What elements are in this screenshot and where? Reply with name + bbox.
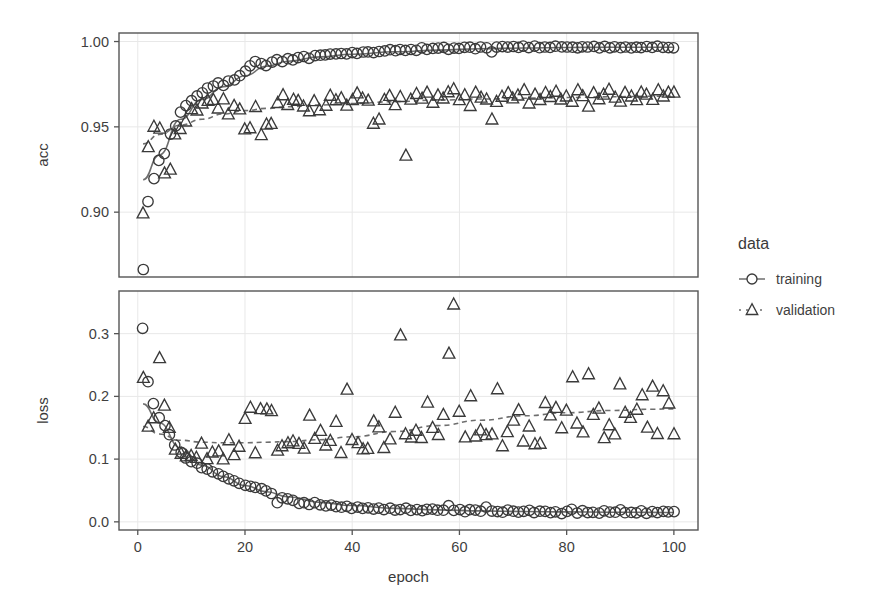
xtick-label-5: 100 [662,539,686,555]
xtick-label-0: 0 [134,539,142,555]
axis-label-acc: acc [34,143,51,167]
legend-label-validation: validation [776,302,835,318]
panel-loss: 0.00.10.20.3loss [34,291,698,530]
ytick-label-loss-3: 0.3 [89,326,109,342]
ytick-label-acc-0: 0.90 [81,204,109,220]
circle-icon [747,274,757,284]
ytick-label-loss-1: 0.1 [89,451,109,467]
ytick-label-acc-1: 0.95 [81,119,109,135]
xtick-label-3: 60 [451,539,467,555]
xtick-label-2: 40 [344,539,360,555]
xtick-label-1: 20 [237,539,253,555]
axis-label-epoch: epoch [388,568,429,585]
ytick-label-loss-0: 0.0 [89,514,109,530]
x-axis: 020406080100epoch [134,530,686,585]
ytick-label-loss-2: 0.2 [89,388,109,404]
ytick-label-acc-2: 1.00 [81,34,109,50]
panel-acc: 0.900.951.00acc [34,33,698,277]
chart-svg: 0.900.951.00acc0.00.10.20.3loss020406080… [0,0,880,612]
legend: datatrainingvalidation [738,235,835,318]
plot-figure: 0.900.951.00acc0.00.10.20.3loss020406080… [0,0,880,612]
legend-label-training: training [776,271,822,287]
legend-title: data [738,235,769,252]
axis-label-loss: loss [34,397,51,424]
triangle-icon [746,304,757,315]
panel-background-loss [119,291,698,530]
xtick-label-4: 80 [559,539,575,555]
